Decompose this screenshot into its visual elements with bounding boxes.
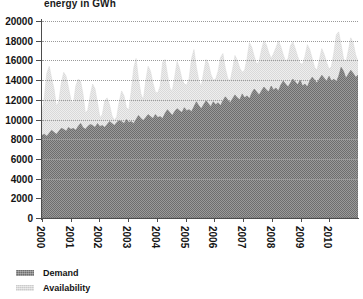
x-axis-tick	[329, 218, 330, 222]
y-axis-tick	[36, 80, 41, 81]
y-axis-tick	[36, 218, 41, 219]
y-axis-tick-label: 20000	[5, 16, 33, 27]
x-axis-tick-label: 2003	[121, 226, 132, 248]
energy-area-chart: energy in GWh 02000400060008000100001200…	[0, 0, 363, 299]
y-axis-line	[41, 19, 42, 220]
y-axis-tick-label: 18000	[5, 35, 33, 46]
y-axis-tick-label: 16000	[5, 55, 33, 66]
x-axis-tick-label: 2002	[92, 226, 103, 248]
x-axis-tick-label: 2005	[179, 226, 190, 248]
gridline	[42, 159, 358, 160]
gridline	[42, 100, 358, 101]
y-axis-tick-label: 8000	[11, 134, 33, 145]
y-axis-tick	[36, 139, 41, 140]
x-axis-line	[41, 218, 359, 219]
x-axis-tick	[157, 218, 158, 222]
gridline	[42, 120, 358, 121]
x-axis-tick-label: 2008	[265, 226, 276, 248]
x-axis-tick	[186, 218, 187, 222]
x-axis-tick	[99, 218, 100, 222]
gridline	[42, 80, 358, 81]
y-axis-tick-label: 0	[27, 213, 33, 224]
y-axis-tick	[36, 21, 41, 22]
x-axis-tick	[42, 218, 43, 222]
availability-swatch-icon	[16, 285, 34, 291]
y-axis-tick	[36, 41, 41, 42]
x-axis-tick-label: 2010	[322, 226, 333, 248]
x-axis-tick-label: 2009	[294, 226, 305, 248]
demand-swatch-icon	[16, 270, 34, 276]
x-axis-tick-label: 2004	[150, 226, 161, 248]
legend-label-demand: Demand	[43, 268, 79, 278]
gridline	[42, 139, 358, 140]
x-axis-tick-label: 2001	[64, 226, 75, 248]
y-axis-tick-label: 14000	[5, 75, 33, 86]
legend-label-availability: Availability	[43, 283, 90, 293]
y-axis-tick-label: 2000	[11, 193, 33, 204]
x-axis-tick	[272, 218, 273, 222]
y-axis-labels: 0200040006000800010000120001400016000180…	[0, 0, 36, 299]
plot-area	[42, 21, 358, 218]
x-axis-tick-label: 2000	[35, 226, 46, 248]
x-axis-tick-label: 2006	[207, 226, 218, 248]
gridline	[42, 179, 358, 180]
x-axis-tick	[301, 218, 302, 222]
x-axis-tick	[128, 218, 129, 222]
chart-title: energy in GWh	[44, 0, 116, 9]
legend-item-availability: Availability	[16, 281, 90, 294]
y-axis-tick-label: 6000	[11, 153, 33, 164]
y-axis-tick	[36, 120, 41, 121]
x-axis-tick	[243, 218, 244, 222]
gridline	[42, 198, 358, 199]
x-axis-tick	[71, 218, 72, 222]
y-axis-tick	[36, 60, 41, 61]
y-axis-tick	[36, 100, 41, 101]
y-axis-tick	[36, 159, 41, 160]
gridline	[42, 41, 358, 42]
y-axis-tick	[36, 179, 41, 180]
chart-legend: Demand Availability	[16, 266, 90, 296]
y-axis-tick-label: 4000	[11, 173, 33, 184]
x-axis-tick	[214, 218, 215, 222]
y-axis-tick-label: 12000	[5, 94, 33, 105]
y-axis-tick	[36, 198, 41, 199]
gridline	[42, 21, 358, 22]
gridline	[42, 60, 358, 61]
legend-item-demand: Demand	[16, 266, 90, 279]
y-axis-tick-label: 10000	[5, 114, 33, 125]
x-axis-tick-label: 2007	[236, 226, 247, 248]
